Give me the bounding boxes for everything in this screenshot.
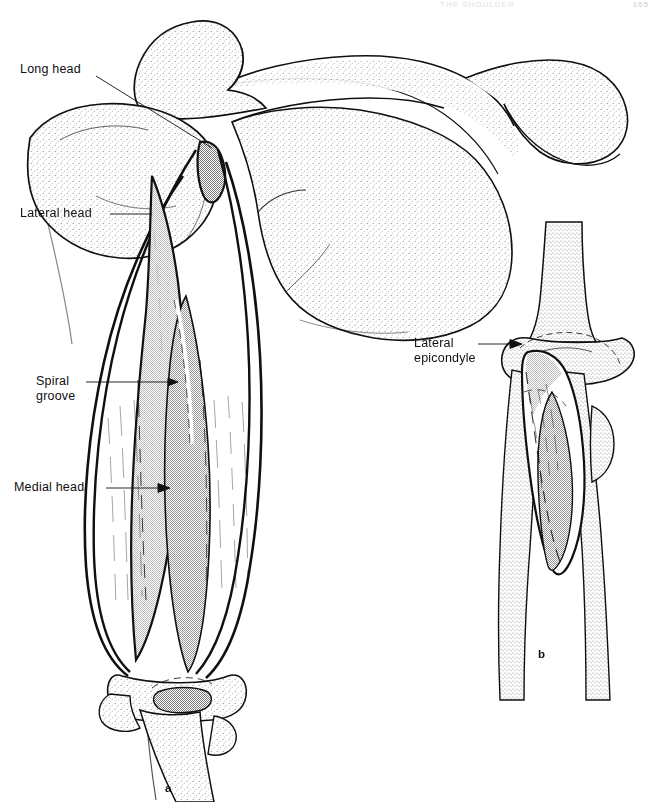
anatomy-figure-plate: 105 THE SHOULDER: [0, 0, 649, 802]
figure-caption-b: b: [538, 648, 545, 660]
label-lateral-epicondyle-line1: Lateral: [414, 336, 454, 351]
label-medial-head: Medial head: [14, 480, 84, 495]
label-spiral-groove-line2: groove: [36, 389, 75, 404]
figure-artwork: [0, 0, 649, 802]
label-lateral-head: Lateral head: [20, 206, 92, 221]
panel-b-artwork: [499, 222, 635, 700]
label-long-head: Long head: [20, 62, 81, 77]
label-lateral-epicondyle-line2: epicondyle: [414, 351, 476, 366]
long-head-tendon: [198, 142, 226, 203]
figure-caption-a: a: [165, 782, 171, 794]
acromion: [134, 21, 266, 119]
label-spiral-groove-line1: Spiral: [36, 374, 69, 389]
medial-head-muscle: [165, 296, 210, 672]
distal-humerus-elbow: [99, 675, 246, 802]
humerus-shaft-b: [528, 222, 596, 342]
